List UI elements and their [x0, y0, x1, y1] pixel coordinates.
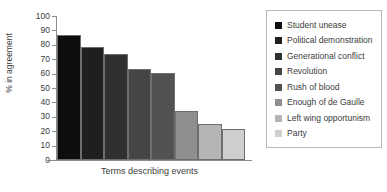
legend-item: Enough of de Gaulle — [275, 98, 365, 108]
bar — [128, 69, 152, 160]
y-tick-label: 80 — [10, 40, 50, 49]
legend-swatch-icon — [275, 37, 282, 44]
legend-item: Revolution — [275, 67, 327, 77]
y-tick-label: 0 — [10, 156, 50, 165]
legend-item-label: Party — [287, 129, 307, 138]
legend-item: Political demonstration — [275, 36, 373, 46]
legend-item-label: Rush of blood — [287, 83, 339, 92]
bar-series — [57, 16, 245, 160]
bar — [175, 111, 199, 160]
legend-item-label: Enough of de Gaulle — [287, 98, 365, 107]
legend-item: Rush of blood — [275, 82, 339, 92]
y-tick-label: 30 — [10, 112, 50, 121]
legend-swatch-icon — [275, 53, 282, 60]
legend-swatch-icon — [275, 22, 282, 29]
legend-item: Party — [275, 129, 307, 139]
legend-item-label: Political demonstration — [287, 36, 373, 45]
legend-swatch-icon — [275, 99, 282, 106]
legend-item: Generational conflict — [275, 51, 365, 61]
bar — [104, 54, 128, 160]
bar — [198, 124, 222, 160]
bar — [81, 47, 105, 160]
legend-swatch-icon — [275, 115, 282, 122]
legend-swatch-icon — [275, 68, 282, 75]
y-tick-label: 100 — [10, 12, 50, 21]
bar — [57, 35, 81, 160]
bar — [151, 73, 175, 160]
legend-item-label: Left wing opportunism — [287, 114, 370, 123]
y-tick-label: 70 — [10, 55, 50, 64]
y-tick-label: 40 — [10, 98, 50, 107]
legend-item-label: Revolution — [287, 67, 327, 76]
y-tick-label: 60 — [10, 69, 50, 78]
x-axis-line — [47, 160, 252, 161]
bar — [222, 129, 246, 160]
bar-chart-figure: 0102030405060708090100 % in agreement Te… — [0, 0, 387, 192]
legend-item: Left wing opportunism — [275, 113, 370, 123]
chart-legend: Student uneasePolitical demonstrationGen… — [266, 10, 382, 148]
x-axis-title: Terms describing events — [47, 166, 252, 176]
legend-swatch-icon — [275, 84, 282, 91]
y-tick-label: 90 — [10, 26, 50, 35]
legend-swatch-icon — [275, 130, 282, 137]
legend-item: Student unease — [275, 20, 347, 30]
legend-item-label: Generational conflict — [287, 52, 365, 61]
y-tick-mark — [52, 160, 57, 161]
y-axis-title: % in agreement — [4, 18, 14, 108]
legend-item-label: Student unease — [287, 21, 347, 30]
y-tick-label: 10 — [10, 141, 50, 150]
y-tick-label: 20 — [10, 127, 50, 136]
y-tick-label: 50 — [10, 84, 50, 93]
